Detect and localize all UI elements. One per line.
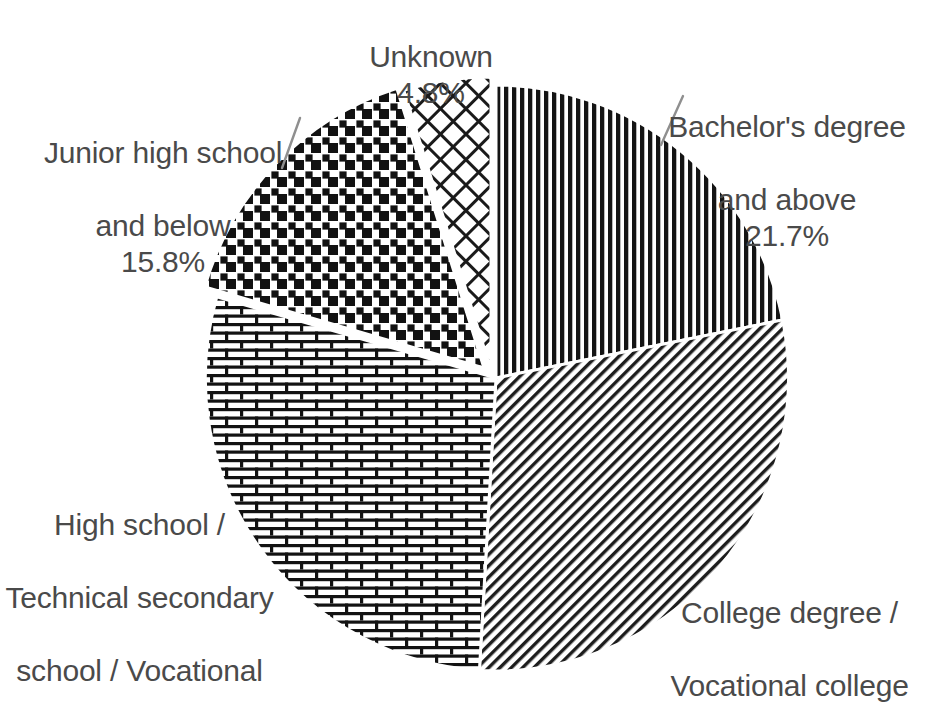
slice-label-highschool-line2: Technical secondary <box>5 581 273 614</box>
slice-label-college: College degree / Vocational college 29.2… <box>652 558 927 703</box>
slice-label-unknown-text: Unknown <box>369 40 493 73</box>
slice-label-college-line2: Vocational college <box>670 669 908 702</box>
slice-label-college-line1: College degree / <box>681 596 898 629</box>
slice-label-bachelor: Bachelor's degree and above 21.7% <box>648 72 926 292</box>
slice-value-junior: 15.8% <box>18 244 308 281</box>
slice-label-highschool: High school / Technical secondary school… <box>2 470 277 703</box>
slice-value-bachelor: 21.7% <box>648 218 926 255</box>
slice-label-junior-line1: Junior high school <box>44 136 282 169</box>
slice-label-junior: Junior high school and below 15.8% <box>18 98 308 318</box>
pie-chart-figure: Unknown 4.8% Bachelor's degree and above… <box>0 0 929 703</box>
slice-label-bachelor-line2: and above <box>718 183 856 216</box>
slice-label-junior-line2: and below <box>96 209 231 242</box>
slice-label-bachelor-line1: Bachelor's degree <box>668 110 905 143</box>
slice-label-highschool-line3: school / Vocational <box>16 654 262 687</box>
slice-label-unknown: Unknown 4.8% <box>300 2 562 148</box>
slice-label-highschool-line1: High school / <box>54 508 225 541</box>
slice-value-unknown: 4.8% <box>300 75 562 112</box>
